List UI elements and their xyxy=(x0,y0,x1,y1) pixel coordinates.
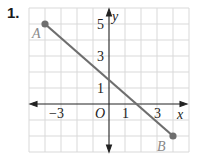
coordinate-graph: y x O −3 1 3 1 3 5 A B xyxy=(0,0,199,155)
x-axis-right-arrow-icon xyxy=(180,102,187,107)
y-tick-label: 3 xyxy=(97,49,104,64)
x-axis-left-arrow-icon xyxy=(30,102,37,107)
point-b-label: B xyxy=(157,139,166,154)
x-tick-label: 3 xyxy=(154,106,161,121)
point-a xyxy=(41,20,48,27)
y-axis-up-arrow-icon xyxy=(107,9,112,16)
y-tick-label: 5 xyxy=(97,17,104,32)
y-axis-label: y xyxy=(110,9,119,24)
point-b xyxy=(169,132,176,139)
x-tick-label: −3 xyxy=(49,106,64,121)
x-tick-label: 1 xyxy=(122,106,129,121)
y-axis-down-arrow-icon xyxy=(107,145,112,152)
point-a-label: A xyxy=(31,26,41,41)
y-tick-label: 1 xyxy=(97,81,104,96)
x-axis-label: x xyxy=(176,107,184,122)
origin-label: O xyxy=(95,106,105,121)
